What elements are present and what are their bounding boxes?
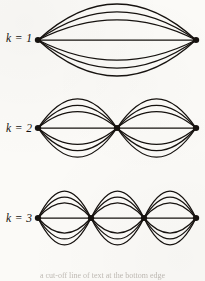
diagram-k3 — [28, 178, 205, 260]
diagram-k2 — [28, 88, 205, 170]
arc-edge — [117, 99, 196, 128]
graph-vertex — [141, 215, 147, 221]
graph-vertex — [193, 125, 199, 131]
graph-vertex — [88, 215, 94, 221]
arc-edge — [38, 218, 91, 245]
figure-page: k = 1 k = 2 k = 3 a cut-off line of text… — [0, 0, 205, 281]
arc-edge — [117, 112, 196, 128]
graph-vertex — [114, 125, 120, 131]
arc-edge — [38, 128, 117, 157]
arc-edge — [91, 218, 144, 239]
arc-edge — [117, 128, 196, 157]
arc-edge — [38, 99, 117, 128]
arc-edge — [38, 191, 91, 218]
arc-edge — [117, 128, 196, 151]
arc-edge — [38, 40, 196, 76]
arc-edge — [117, 105, 196, 128]
arc-edge — [38, 128, 117, 144]
arc-edge — [144, 218, 196, 239]
arc-edge — [38, 128, 117, 151]
arc-edge — [38, 105, 117, 128]
arc-edge — [91, 218, 144, 245]
arc-edge — [38, 4, 196, 40]
arc-edge — [38, 12, 196, 40]
graph-vertex — [35, 125, 41, 131]
graph-vertex — [35, 215, 41, 221]
arc-edge — [38, 20, 196, 40]
graph-vertex — [193, 37, 199, 43]
arc-edge — [144, 191, 196, 218]
arc-edge — [144, 197, 196, 218]
arc-edge — [144, 218, 196, 245]
arc-edge — [38, 40, 196, 68]
arc-edge — [38, 40, 196, 60]
diagram-k1 — [28, 0, 205, 82]
graph-vertex — [193, 215, 199, 221]
cut-off-caption: a cut-off line of text at the bottom edg… — [0, 272, 205, 281]
arc-edge — [38, 218, 91, 239]
graph-vertex — [35, 37, 41, 43]
arc-edge — [38, 197, 91, 218]
arc-edge — [91, 191, 144, 218]
arc-edge — [91, 197, 144, 218]
arc-edge — [38, 112, 117, 128]
arc-edge — [117, 128, 196, 144]
